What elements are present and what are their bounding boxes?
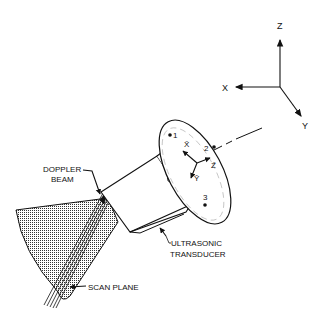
marker-3-label: 3: [203, 193, 208, 202]
y-axis-label: Y: [302, 121, 308, 131]
z-axis-label: Z: [277, 21, 283, 31]
doppler-label-line1: DOPPLER: [43, 165, 81, 174]
diagram-canvas: Z X Y X̄ Z̄ Ȳ: [0, 0, 324, 320]
global-axes: Z X Y: [222, 21, 308, 131]
marker-2-label: 2: [204, 144, 209, 153]
x-axis-label: X: [222, 83, 228, 93]
y-axis-arrow-icon: [280, 87, 301, 116]
local-z-label: Z̄: [211, 161, 216, 170]
callout-ultrasonic-transducer: ULTRASONIC TRANSDUCER: [160, 228, 226, 259]
transducer-label-line1: ULTRASONIC: [171, 239, 222, 248]
local-x-label: X̄: [184, 140, 190, 149]
callout-scan-plane: SCAN PLANE: [70, 283, 139, 292]
marker-2-dot: [212, 145, 216, 149]
scan-plane-label: SCAN PLANE: [88, 283, 139, 292]
callout-doppler-beam: DOPPLER BEAM: [43, 165, 100, 194]
local-y-label: Ȳ: [194, 174, 200, 183]
marker-1-label: 1: [173, 131, 178, 140]
marker-1-dot: [168, 133, 172, 137]
beam-axis-line: [214, 128, 262, 150]
marker-3-dot: [203, 203, 207, 207]
transducer-label-line2: TRANSDUCER: [170, 250, 226, 259]
doppler-label-line2: BEAM: [51, 175, 74, 184]
